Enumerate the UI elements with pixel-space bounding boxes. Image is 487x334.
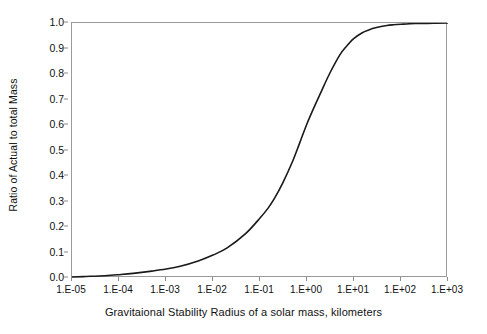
y-tick-mark [64,47,68,48]
x-tick-label: 1.E+02 [384,284,416,295]
y-axis-title: Ratio of Actual to total Mass [7,78,19,211]
y-tick-label: 0.6 [49,118,64,130]
y-tick-label: 0.4 [49,169,64,181]
x-tick-label: 1.E+00 [290,284,322,295]
y-tick-label: 1.0 [49,16,64,28]
x-tick-mark [447,277,448,281]
y-tick-mark [64,200,68,201]
y-tick-mark [64,22,68,23]
y-tick-mark [64,73,68,74]
y-tick-mark [64,149,68,150]
y-tick-mark [64,124,68,125]
x-tick-mark [400,277,401,281]
x-tick-mark [212,277,213,281]
x-tick-mark [259,277,260,281]
x-tick-label: 1.E-04 [103,284,132,295]
x-tick-mark [165,277,166,281]
data-series-line [72,23,448,277]
x-tick-label: 1.E+01 [337,284,369,295]
plot-svg [72,23,448,278]
chart-figure: Ratio of Actual to total Mass 0.00.10.20… [0,0,487,334]
x-tick-label: 1.E-01 [244,284,273,295]
y-tick-label: 0.8 [49,67,64,79]
x-tick-mark [353,277,354,281]
y-tick-mark [64,98,68,99]
x-tick-label: 1.E+03 [431,284,463,295]
y-axis-tick-labels: 0.00.10.20.30.40.50.60.70.80.91.0 [30,22,68,277]
y-tick-label: 0.2 [49,220,64,232]
x-tick-mark [71,277,72,281]
y-tick-label: 0.1 [49,246,64,258]
x-axis-tick-labels: 1.E-051.E-041.E-031.E-021.E-011.E+001.E+… [71,277,447,303]
y-tick-label: 0.9 [49,42,64,54]
y-tick-label: 0.3 [49,195,64,207]
y-tick-mark [64,277,68,278]
y-tick-label: 0.5 [49,144,64,156]
y-tick-label: 0.0 [49,271,64,283]
x-tick-label: 1.E-02 [197,284,226,295]
y-tick-mark [64,226,68,227]
x-tick-label: 1.E-05 [56,284,85,295]
x-axis-title: Gravitaional Stability Radius of a solar… [0,306,487,318]
y-tick-mark [64,175,68,176]
plot-area [71,22,447,277]
y-tick-label: 0.7 [49,93,64,105]
y-tick-mark [64,251,68,252]
y-axis-title-container: Ratio of Actual to total Mass [0,0,26,290]
x-tick-mark [118,277,119,281]
x-tick-mark [306,277,307,281]
x-tick-label: 1.E-03 [150,284,179,295]
